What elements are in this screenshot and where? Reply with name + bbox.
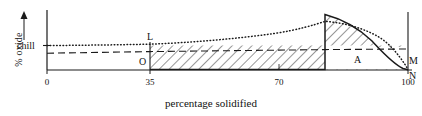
x-axis-title: percentage solidified <box>0 97 422 109</box>
x-tick-label-100: 100 <box>396 77 420 87</box>
point-label-O: O <box>139 56 146 67</box>
point-label-L: L <box>147 31 153 42</box>
x-tick-label-70: 70 <box>267 77 291 87</box>
chill-level-label: chill <box>17 40 35 51</box>
x-tick-label-0: 0 <box>35 77 59 87</box>
point-label-M: M <box>409 55 418 66</box>
point-label-A: A <box>354 54 361 65</box>
x-tick-label-35: 35 <box>138 77 162 87</box>
oxide-solidification-chart: % oxide chill percentage solidified 0 35… <box>0 0 422 116</box>
point-label-N: N <box>409 70 416 81</box>
